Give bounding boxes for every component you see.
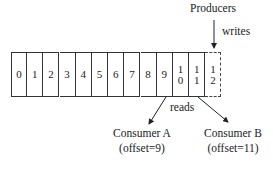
log-cell: 1 2 xyxy=(205,52,221,97)
log-cell: 9 xyxy=(157,52,173,97)
producers-label: Producers xyxy=(190,2,236,14)
log-cell: 1 1 xyxy=(189,52,205,97)
log-cell: 5 xyxy=(92,52,108,97)
log-cell: 1 xyxy=(27,52,43,97)
consumer-b-offset: (offset=11) xyxy=(203,141,263,156)
log-cell: 3 xyxy=(60,52,76,97)
log-cell: 6 xyxy=(108,52,124,97)
reads-arrow-a xyxy=(149,97,166,124)
log-cell: 0 xyxy=(11,52,27,97)
consumer-a-offset: (offset=9) xyxy=(112,141,172,156)
log-cell: 8 xyxy=(141,52,157,97)
log-cell: 1 0 xyxy=(173,52,189,97)
consumer-a-name: Consumer A xyxy=(112,126,172,141)
writes-label: writes xyxy=(222,25,250,37)
log-cell: 7 xyxy=(124,52,140,97)
log-cell: 2 xyxy=(43,52,59,97)
reads-arrow-b xyxy=(198,97,228,122)
consumer-b: Consumer B (offset=11) xyxy=(203,126,263,156)
consumer-b-name: Consumer B xyxy=(203,126,263,141)
consumer-a: Consumer A (offset=9) xyxy=(112,126,172,156)
log-cell: 4 xyxy=(76,52,92,97)
reads-label: reads xyxy=(170,101,194,113)
